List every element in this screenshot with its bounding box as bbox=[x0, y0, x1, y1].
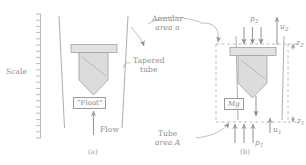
velocity-top-subscript: 2 bbox=[285, 26, 289, 32]
float-body-b bbox=[238, 55, 267, 98]
tube-area-leader bbox=[196, 123, 229, 138]
pressure-bottom-arrows bbox=[235, 124, 253, 143]
tapered-tube-label-line2: tube bbox=[140, 65, 157, 74]
elevation-top-label: z2 bbox=[296, 39, 304, 48]
pressure-top-arrows bbox=[244, 27, 261, 44]
tapered-tube-label: Tapered tube bbox=[133, 57, 165, 74]
tube-area-label-line2: area A bbox=[155, 138, 180, 147]
tube-area-label: Tube area A bbox=[155, 130, 180, 147]
panel-b-caption: (b) bbox=[240, 148, 250, 156]
flow-label: Flow bbox=[100, 126, 119, 135]
panel-a-caption: (a) bbox=[88, 148, 98, 156]
float-cap-a bbox=[71, 45, 117, 53]
pressure-top-subscript: 2 bbox=[255, 18, 259, 24]
float-label: “Float” bbox=[73, 97, 106, 109]
elevation-bottom-subscript: 1 bbox=[301, 120, 305, 126]
elevation-bottom-label: z1 bbox=[297, 117, 305, 126]
elevation-top-subscript: 2 bbox=[300, 42, 304, 48]
annular-area-label-line2: area a bbox=[155, 23, 179, 32]
weight-label: Mg bbox=[224, 98, 244, 110]
float-cap-b bbox=[230, 48, 276, 56]
float-body-a bbox=[79, 52, 108, 95]
velocity-bottom-subscript: 1 bbox=[278, 129, 282, 135]
tapered-tube-leader bbox=[124, 63, 131, 68]
annular-area-arrowhead-a bbox=[131, 27, 144, 46]
annular-area-leader bbox=[200, 23, 218, 42]
rotameter-figure: Scale “Float” Tapered tube Flow (a) Annu… bbox=[0, 0, 306, 165]
scale-ruler bbox=[36, 14, 41, 138]
pressure-bottom-label: p1 bbox=[255, 139, 264, 148]
velocity-top-label: u2 bbox=[280, 23, 289, 32]
velocity-bottom-label: u1 bbox=[273, 126, 282, 135]
pressure-bottom-subscript: 1 bbox=[260, 142, 264, 148]
annular-area-label: Annular area a bbox=[152, 15, 183, 32]
scale-label: Scale bbox=[6, 68, 27, 77]
pressure-top-label: p2 bbox=[250, 15, 259, 24]
elevation-datum-lines bbox=[288, 44, 298, 122]
